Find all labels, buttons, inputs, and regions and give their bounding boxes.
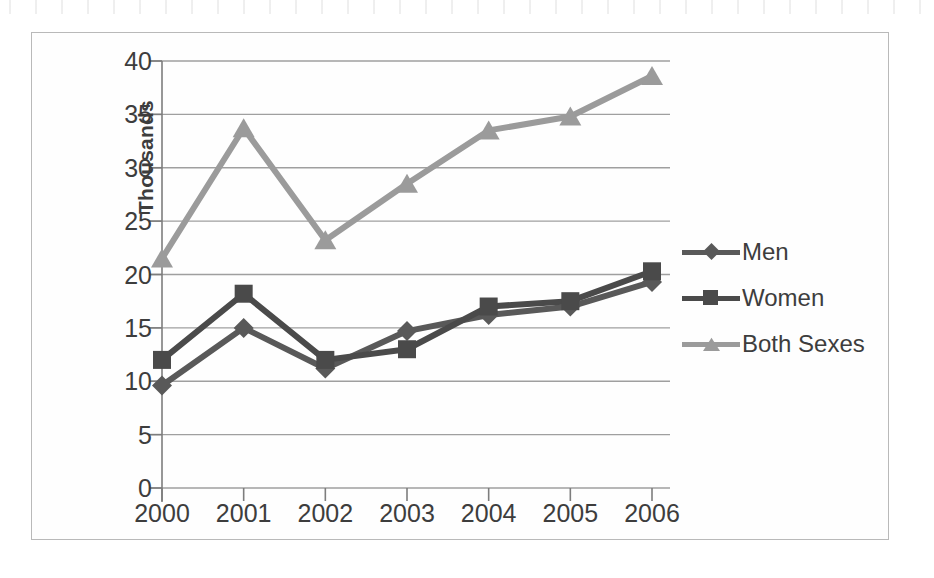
y-tick-label: 5 — [100, 420, 152, 449]
legend-label: Both Sexes — [740, 330, 865, 358]
x-tick-label: 2001 — [199, 499, 289, 528]
chart-frame: Thousands 0510152025303540 2000200120022… — [31, 32, 889, 540]
plot-area: Thousands 0510152025303540 2000200120022… — [32, 33, 890, 541]
data-point-marker-square — [235, 285, 253, 303]
legend-label: Women — [740, 284, 824, 312]
data-point-marker-square — [398, 340, 416, 358]
series-women — [153, 262, 661, 369]
x-tick-label: 2002 — [280, 499, 370, 528]
data-point-marker-square — [561, 292, 579, 310]
legend-swatch-triangle-icon — [682, 333, 740, 355]
series-men — [152, 272, 662, 396]
y-tick-label: 40 — [100, 47, 152, 76]
y-tick-label: 30 — [100, 153, 152, 182]
x-tick-label: 2003 — [362, 499, 452, 528]
data-point-marker-square — [480, 298, 498, 316]
legend-swatch-diamond-icon — [682, 241, 740, 263]
x-tick-label: 2004 — [444, 499, 534, 528]
y-tick-label: 20 — [100, 260, 152, 289]
data-point-marker-square — [153, 351, 171, 369]
chart-legend: MenWomenBoth Sexes — [682, 229, 887, 367]
y-axis-tick-labels: 0510152025303540 — [100, 33, 152, 541]
legend-label: Men — [740, 238, 789, 266]
data-point-marker-square — [643, 262, 661, 280]
legend-marker-square-icon — [703, 290, 718, 305]
y-tick-label: 15 — [100, 313, 152, 342]
x-tick-label: 2005 — [525, 499, 615, 528]
legend-item-women[interactable]: Women — [682, 275, 887, 321]
legend-swatch-square-icon — [682, 287, 740, 309]
y-tick-label: 35 — [100, 100, 152, 129]
data-point-marker-triangle — [233, 118, 255, 137]
y-tick-label: 10 — [100, 367, 152, 396]
data-point-marker-triangle — [641, 66, 663, 85]
x-tick-label: 2000 — [117, 499, 207, 528]
x-tick-label: 2006 — [607, 499, 697, 528]
legend-item-men[interactable]: Men — [682, 229, 887, 275]
series-both-sexes — [151, 66, 663, 268]
y-tick-label: 25 — [100, 207, 152, 236]
legend-item-both-sexes[interactable]: Both Sexes — [682, 321, 887, 367]
data-point-marker-diamond — [397, 321, 417, 341]
legend-marker-diamond-icon — [703, 243, 720, 260]
scan-artifact-strip — [0, 0, 934, 14]
data-point-marker-square — [316, 351, 334, 369]
